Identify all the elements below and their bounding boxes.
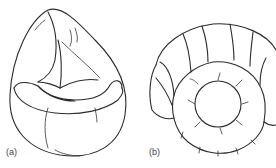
panel-b: (b): [138, 0, 276, 168]
panel-label-b: (b): [149, 147, 160, 157]
panel-label-a: (a): [6, 147, 17, 157]
round-segmented-chair-icon: [138, 0, 276, 168]
bean-bag-chair-icon: [0, 0, 138, 168]
panel-a: (a): [0, 0, 138, 168]
